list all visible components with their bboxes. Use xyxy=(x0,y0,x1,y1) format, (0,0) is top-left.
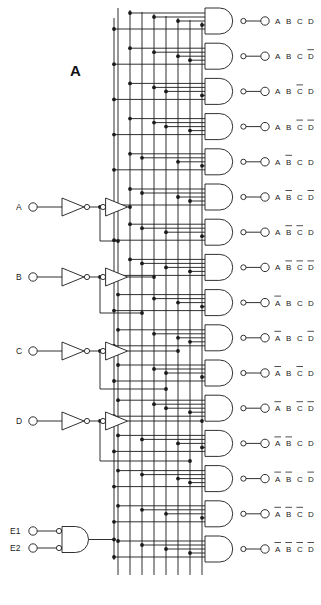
nand-output-bubble-14 xyxy=(241,511,246,516)
junction-dot xyxy=(176,349,180,353)
junction-dot xyxy=(164,90,168,94)
output-literal-A-12: A xyxy=(275,439,281,448)
output-terminal-8 xyxy=(261,298,269,306)
figure-label: A xyxy=(70,62,81,79)
nand-gate-12[interactable] xyxy=(205,430,233,456)
output-literal-C-1: C xyxy=(297,52,303,61)
junction-dot xyxy=(128,258,132,262)
junction-dot xyxy=(112,62,116,66)
inverter-1-bubble-B xyxy=(84,274,89,279)
output-literal-D-2: D xyxy=(308,87,314,96)
junction-dot xyxy=(140,438,144,442)
enable-input-bubble-E2 xyxy=(56,545,61,550)
inverter-1-bubble-D xyxy=(84,418,89,423)
enable-and-gate[interactable] xyxy=(62,527,89,553)
junction-dot xyxy=(188,551,192,555)
nand-gate-0[interactable] xyxy=(205,8,233,34)
junction-dot xyxy=(176,19,180,23)
output-literal-A-0: A xyxy=(275,17,281,26)
output-literal-B-13: B xyxy=(286,475,291,484)
nand-gate-13[interactable] xyxy=(205,466,233,492)
junction-dot xyxy=(164,406,168,410)
nand-output-bubble-10 xyxy=(241,370,246,375)
nand-gate-4[interactable] xyxy=(205,149,233,175)
inverter-1-bubble-A xyxy=(84,204,89,209)
output-literal-B-6: B xyxy=(286,228,291,237)
nand-gate-5[interactable] xyxy=(205,184,233,210)
output-terminal-6 xyxy=(261,228,269,236)
output-literal-D-7: D xyxy=(308,263,314,272)
input-terminal-B xyxy=(29,273,37,281)
output-literal-B-12: B xyxy=(286,439,291,448)
junction-dot xyxy=(112,450,116,454)
junction-dot xyxy=(164,547,168,551)
output-literal-D-6: D xyxy=(308,228,314,237)
nand-gate-14[interactable] xyxy=(205,501,233,527)
junction-dot xyxy=(112,27,116,31)
nand-gate-10[interactable] xyxy=(205,360,233,386)
enable-terminal-E1 xyxy=(29,527,37,535)
output-literal-A-15: A xyxy=(275,545,281,554)
junction-dot xyxy=(128,222,132,226)
output-literal-B-15: B xyxy=(286,545,291,554)
junction-dot xyxy=(116,398,120,402)
output-literal-C-12: C xyxy=(297,439,303,448)
junction-dot xyxy=(128,187,132,191)
output-literal-C-14: C xyxy=(297,510,303,519)
nand-gate-11[interactable] xyxy=(205,395,233,421)
junction-dot xyxy=(188,129,192,133)
junction-dot xyxy=(116,469,120,473)
junction-dot xyxy=(152,50,156,54)
nand-gate-3[interactable] xyxy=(205,114,233,140)
nand-gate-9[interactable] xyxy=(205,325,233,351)
output-literal-D-15: D xyxy=(308,545,314,554)
output-literal-C-2: C xyxy=(297,87,303,96)
nand-output-bubble-4 xyxy=(241,159,246,164)
output-literal-C-6: C xyxy=(297,228,303,237)
output-literal-A-10: A xyxy=(275,369,281,378)
enable-label-E2: E2 xyxy=(10,543,21,553)
junction-dot xyxy=(140,156,144,160)
junction-dot xyxy=(176,477,180,481)
output-literal-C-9: C xyxy=(297,334,303,343)
nand-gate-8[interactable] xyxy=(205,290,233,316)
output-literal-D-1: D xyxy=(308,52,314,61)
junction-dot xyxy=(112,309,116,313)
nand-gate-1[interactable] xyxy=(205,43,233,69)
junction-dot xyxy=(140,543,144,547)
output-literal-D-3: D xyxy=(308,123,314,132)
junction-dot xyxy=(112,485,116,489)
input-label-C: C xyxy=(16,346,22,356)
junction-dot xyxy=(128,117,132,121)
nand-gate-15[interactable] xyxy=(205,536,233,562)
output-literal-A-14: A xyxy=(275,510,281,519)
output-literal-B-0: B xyxy=(286,17,291,26)
junction-dot xyxy=(152,15,156,19)
output-terminal-15 xyxy=(261,545,269,553)
nand-output-bubble-8 xyxy=(241,300,246,305)
output-literal-C-3: C xyxy=(297,123,303,132)
input-terminal-A xyxy=(29,203,37,211)
output-terminal-3 xyxy=(261,122,269,130)
output-terminal-10 xyxy=(261,369,269,377)
junction-dot xyxy=(176,160,180,164)
enable-terminal-E2 xyxy=(29,544,37,552)
output-literal-C-13: C xyxy=(297,475,303,484)
nand-gate-2[interactable] xyxy=(205,78,233,104)
output-terminal-12 xyxy=(261,439,269,447)
output-literal-A-6: A xyxy=(275,228,281,237)
output-literal-B-2: B xyxy=(286,87,291,96)
output-literal-C-8: C xyxy=(297,299,303,308)
junction-dot xyxy=(112,98,116,102)
junction-dot xyxy=(112,555,116,559)
output-terminal-5 xyxy=(261,193,269,201)
nand-gate-7[interactable] xyxy=(205,254,233,280)
nand-gate-6[interactable] xyxy=(205,219,233,245)
nand-output-bubble-15 xyxy=(241,546,246,551)
nand-output-bubble-1 xyxy=(241,54,246,59)
circuit-diagram-canvas: A ABCDABCDABCDABCDABCDABCDABCDABCDABCDAB… xyxy=(0,0,321,605)
output-literal-A-3: A xyxy=(275,123,281,132)
output-terminal-7 xyxy=(261,263,269,271)
junction-dot xyxy=(152,275,156,279)
junction-dot xyxy=(140,508,144,512)
